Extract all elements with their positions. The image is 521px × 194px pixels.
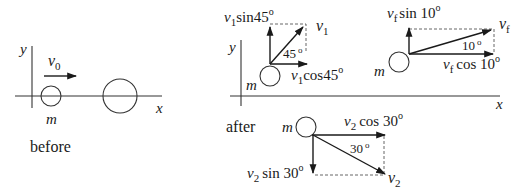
angle-45-label: 45o: [283, 45, 303, 61]
angle-10-label: 10o: [462, 37, 482, 53]
ball-f: [389, 52, 409, 72]
v2-label: v2: [388, 169, 401, 189]
mass-label: m: [282, 119, 293, 135]
after-panel: y x v1sin45o v1 45o v1cos45o m vfsin 10o…: [224, 2, 510, 189]
y-axis-label: y: [227, 39, 236, 55]
ball-2: [296, 117, 316, 137]
ball-1: [260, 66, 280, 86]
vf-cos-label: vfcos 10o: [443, 53, 500, 75]
v2-arrow: [313, 135, 385, 174]
ball-f-group: vfsin 10o vf 10o vfcos 10o m: [374, 2, 510, 79]
x-axis-label: x: [155, 100, 163, 116]
v0-label: v0: [48, 52, 61, 72]
vf-label: vf: [499, 15, 510, 35]
vf-sin-label: vfsin 10o: [387, 2, 441, 24]
ball-1-group: v1sin45o v1 45o v1cos45o m: [224, 6, 343, 93]
v2-cos-label: v2cos 30o: [344, 110, 403, 132]
mass-label: m: [246, 77, 257, 93]
before-caption: before: [30, 138, 71, 155]
v1-cos-label: v1cos45o: [291, 64, 343, 86]
x-axis-label: x: [495, 96, 503, 112]
mass-label: m: [374, 63, 385, 79]
y-axis-label: y: [18, 41, 27, 57]
before-panel: y x v0 m before: [15, 41, 163, 155]
angle-30-label: 30o: [350, 140, 370, 156]
v2-sin-label: v2sin 30o: [247, 162, 303, 184]
v1-label: v1: [316, 17, 329, 37]
collision-diagram: y x v0 m before y x v1sin45o v1 45o v1co…: [0, 0, 521, 194]
mass-label: m: [46, 111, 57, 127]
after-caption: after: [226, 118, 256, 135]
ball-2-group: after m v2cos 30o 30o v2sin 30o v2: [226, 110, 403, 189]
v1-sin-label: v1sin45o: [224, 6, 274, 28]
